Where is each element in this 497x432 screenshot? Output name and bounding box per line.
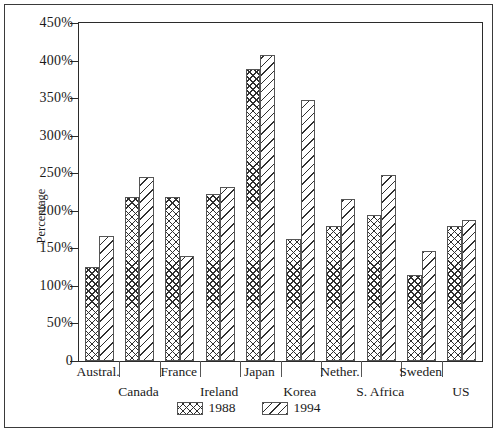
chart-legend: 19881994 xyxy=(0,400,497,416)
legend-label: 1988 xyxy=(209,400,236,416)
x-axis-label-korea: Korea xyxy=(283,384,316,400)
bar-1988-ireland xyxy=(206,194,221,361)
chart-figure: Percentage 050%100%150%200%250%300%350%4… xyxy=(0,0,497,432)
bar-1988-sweden xyxy=(407,275,422,361)
bar-group xyxy=(246,23,275,361)
y-axis-tick-label: 0 xyxy=(66,353,73,369)
plot-area: 050%100%150%200%250%300%350%400%450% xyxy=(78,22,483,362)
cross-hatch-swatch xyxy=(177,402,203,415)
bar-1994-us xyxy=(462,220,477,361)
bar-1988-us xyxy=(447,226,462,361)
x-axis-label-us: US xyxy=(452,384,469,400)
bar-group xyxy=(367,23,396,361)
x-axis-label-nether: Nether. xyxy=(320,364,359,380)
bar-group xyxy=(407,23,436,361)
y-axis-tick-label: 100% xyxy=(40,278,73,294)
y-axis-tick-label: 200% xyxy=(40,203,73,219)
x-axis-labels: Austral.CanadaFranceIrelandJapanKoreaNet… xyxy=(78,362,483,404)
bar-1994-sweden xyxy=(422,251,437,361)
y-axis-tick-label: 300% xyxy=(40,128,73,144)
bar-1988-france xyxy=(165,197,180,361)
bar-1988-safrica xyxy=(367,215,382,361)
x-axis-label-safrica: S. Africa xyxy=(356,384,404,400)
legend-item-1994: 1994 xyxy=(262,400,321,416)
bar-group xyxy=(326,23,355,361)
bar-1988-canada xyxy=(125,197,140,361)
legend-item-1988: 1988 xyxy=(177,400,236,416)
y-axis-tick-label: 350% xyxy=(40,90,73,106)
y-axis-tick-label: 400% xyxy=(40,53,73,69)
bar-1994-france xyxy=(180,256,195,361)
x-axis-label-sweden: Sweden xyxy=(399,364,442,380)
x-axis-label-japan: Japan xyxy=(244,364,275,380)
bar-1994-safrica xyxy=(381,175,396,361)
x-axis-label-france: France xyxy=(160,364,197,380)
bar-1994-korea xyxy=(301,100,316,361)
bar-1988-japan xyxy=(246,69,261,361)
x-axis-label-austral: Austral. xyxy=(77,364,120,380)
bar-group xyxy=(85,23,114,361)
bar-1994-austral xyxy=(99,236,114,361)
bar-group xyxy=(206,23,235,361)
bar-group xyxy=(125,23,154,361)
bar-1994-canada xyxy=(139,177,154,361)
x-axis-label-ireland: Ireland xyxy=(200,384,238,400)
diagonal-hatch-swatch xyxy=(262,402,288,415)
y-axis-tick-label: 250% xyxy=(40,165,73,181)
legend-label: 1994 xyxy=(294,400,321,416)
bar-1994-japan xyxy=(260,55,275,361)
bar-series-container xyxy=(79,23,482,361)
bar-group xyxy=(165,23,194,361)
bar-1994-ireland xyxy=(220,187,235,361)
y-axis-tick-label: 150% xyxy=(40,240,73,256)
y-axis-tick-label: 50% xyxy=(47,315,73,331)
bar-1988-nether xyxy=(326,226,341,361)
bar-group xyxy=(447,23,476,361)
bar-1994-nether xyxy=(341,199,356,361)
bar-1988-korea xyxy=(286,239,301,361)
bar-group xyxy=(286,23,315,361)
bar-1988-austral xyxy=(85,267,100,361)
y-axis-tick-label: 450% xyxy=(40,15,73,31)
x-axis-label-canada: Canada xyxy=(118,384,158,400)
